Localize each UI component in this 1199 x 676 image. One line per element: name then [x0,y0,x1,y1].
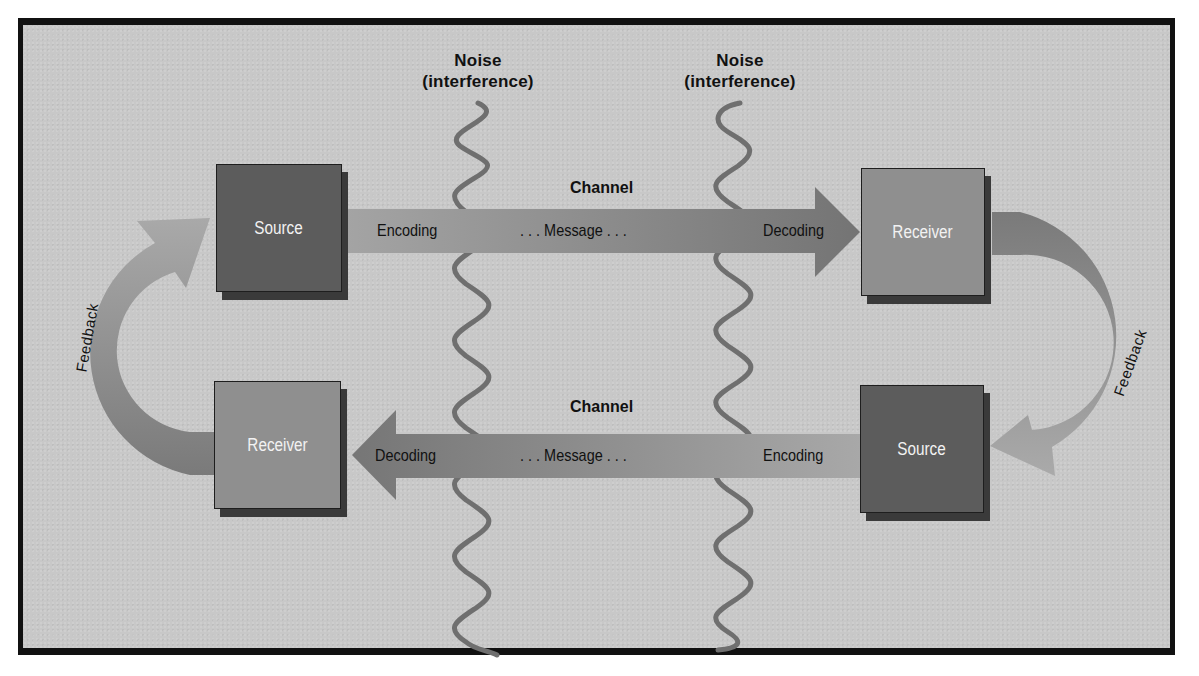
source-box-bottom-label: Source [898,439,946,460]
noise-label-1: Noise (interference) [412,50,544,92]
bottom-decoding-label: Decoding [375,447,436,464]
noise-label-1-line1: Noise [412,50,544,71]
diagram-canvas [0,0,1199,676]
source-box-top: Source [216,164,342,292]
source-box-bottom: Source [860,385,984,513]
receiver-box-top-label: Receiver [893,222,953,243]
bottom-encoding-label: Encoding [763,447,823,464]
noise-wave-1 [454,103,497,655]
receiver-box-bottom-label: Receiver [247,435,307,456]
noise-label-2: Noise (interference) [674,50,806,92]
top-message-label: . . . Message . . . [520,222,627,239]
channel-label-top: Channel [570,180,633,196]
feedback-arrow-left [90,218,214,475]
noise-label-2-line1: Noise [674,50,806,71]
feedback-arrow-right [990,212,1116,476]
channel-label-bottom: Channel [570,399,633,415]
receiver-box-top: Receiver [861,168,985,296]
source-box-top-label: Source [255,218,303,239]
noise-wave-2 [716,103,751,650]
noise-label-2-line2: (interference) [674,71,806,92]
top-decoding-label: Decoding [763,222,824,239]
bottom-message-label: . . . Message . . . [520,447,627,464]
top-encoding-label: Encoding [377,222,437,239]
receiver-box-bottom: Receiver [214,381,341,509]
noise-label-1-line2: (interference) [412,71,544,92]
